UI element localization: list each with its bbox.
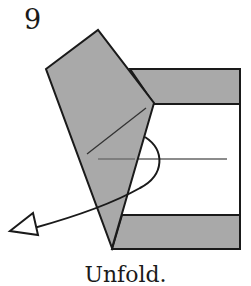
arrowhead-icon (10, 213, 38, 235)
bottom-colored-band (112, 215, 240, 249)
step-caption: Unfold. (0, 262, 251, 286)
